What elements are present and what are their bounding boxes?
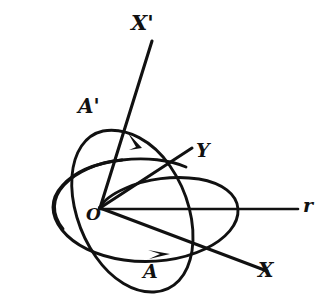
label-x-prime: X'	[131, 12, 154, 33]
label-x: X	[258, 260, 274, 280]
orbit-axes-drawing	[0, 0, 325, 305]
label-y: Y	[196, 141, 210, 160]
label-r: r	[303, 196, 313, 215]
label-a-prime: A'	[78, 96, 100, 116]
label-origin: O	[86, 206, 101, 223]
label-a: A	[143, 262, 158, 281]
orbit-a-arrowhead	[148, 250, 170, 259]
figure-root: X' A' Y r O A X	[0, 0, 325, 305]
